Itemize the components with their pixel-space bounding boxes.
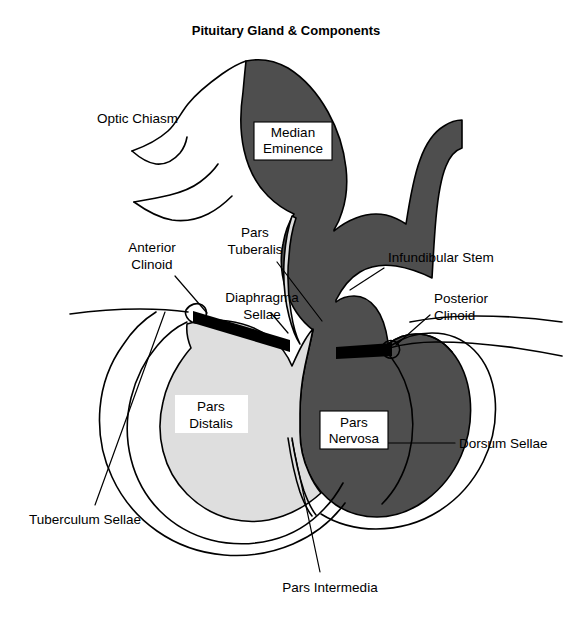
label-pars-intermedia: Pars Intermedia	[282, 580, 378, 595]
pars-nervosa-line-1: Pars	[340, 415, 368, 430]
median-eminence-line-1: Median	[271, 125, 315, 140]
pars-tuberalis-line-1: Pars	[241, 225, 269, 240]
label-infundibular-stem: Infundibular Stem	[388, 250, 494, 265]
pars-distalis-line-2: Distalis	[189, 416, 233, 431]
label-median-eminence: Median Eminence	[254, 122, 332, 160]
label-tuberculum-sellae: Tuberculum Sellae	[29, 512, 141, 527]
pars-distalis-line-1: Pars	[197, 399, 225, 414]
median-eminence-line-2: Eminence	[263, 141, 323, 156]
pituitary-diagram: Pituitary Gland & Components	[0, 0, 572, 634]
label-pars-distalis: Pars Distalis	[175, 395, 248, 433]
diaphragma-sellae-line-2: Sellae	[243, 307, 281, 322]
posterior-clinoid-line-1: Posterior	[434, 291, 489, 306]
anterior-clinoid-line-1: Anterior	[128, 240, 176, 255]
diaphragma-sellae-line-1: Diaphragma	[225, 290, 299, 305]
pars-tuberalis-line-2: Tuberalis	[227, 242, 282, 257]
posterior-clinoid-line-2: Clinoid	[434, 308, 475, 323]
anterior-clinoid-line-2: Clinoid	[131, 257, 172, 272]
label-dorsum-sellae: Dorsum Sellae	[459, 436, 548, 451]
page-title: Pituitary Gland & Components	[192, 23, 381, 38]
pars-nervosa-line-2: Nervosa	[329, 431, 380, 446]
label-pars-nervosa: Pars Nervosa	[320, 411, 388, 449]
label-optic-chiasm: Optic Chiasm	[97, 111, 178, 126]
anatomy-figure: Pituitary Gland & Components	[0, 0, 572, 634]
